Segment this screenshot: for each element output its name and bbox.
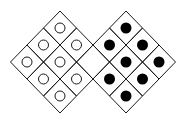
cell-outline bbox=[44, 79, 77, 113]
filled-dot-icon bbox=[121, 23, 132, 34]
grid-cell bbox=[110, 45, 143, 79]
diamond-grid-diagram bbox=[0, 0, 189, 124]
open-circle-icon bbox=[72, 74, 82, 84]
grid-cell bbox=[93, 62, 126, 96]
left-grid-open-circles bbox=[11, 11, 110, 113]
filled-dot-icon bbox=[154, 57, 165, 68]
grid-cell bbox=[11, 45, 44, 79]
cell-outline bbox=[44, 45, 77, 79]
cell-outline bbox=[27, 28, 60, 62]
grid-cell bbox=[93, 28, 126, 62]
right-grid-filled-dots bbox=[93, 11, 176, 113]
grid-cell bbox=[27, 28, 60, 62]
grid-cell bbox=[44, 45, 77, 79]
filled-dot-icon bbox=[137, 74, 148, 85]
open-circle-icon bbox=[39, 40, 49, 50]
grid-cell bbox=[27, 62, 60, 96]
grid-cell bbox=[60, 28, 93, 62]
open-circle-icon bbox=[55, 57, 65, 67]
grid-cell bbox=[143, 45, 176, 79]
cell-outline bbox=[77, 45, 110, 79]
filled-dot-icon bbox=[137, 40, 148, 51]
grid-cell bbox=[126, 28, 159, 62]
grid-cell bbox=[110, 79, 143, 113]
grid-cell bbox=[126, 62, 159, 96]
cell-outline bbox=[60, 28, 93, 62]
cell-outline bbox=[44, 11, 77, 45]
empty-cell bbox=[77, 45, 110, 79]
grid-cell bbox=[110, 11, 143, 45]
filled-dot-icon bbox=[104, 74, 115, 85]
grid-cell bbox=[44, 11, 77, 45]
open-circle-icon bbox=[72, 40, 82, 50]
diagram-canvas bbox=[0, 0, 189, 124]
open-circle-icon bbox=[22, 57, 32, 67]
filled-dot-icon bbox=[121, 57, 132, 68]
cell-outline bbox=[11, 45, 44, 79]
filled-dot-icon bbox=[104, 40, 115, 51]
cell-outline bbox=[27, 62, 60, 96]
grid-cell bbox=[60, 62, 93, 96]
open-circle-icon bbox=[55, 91, 65, 101]
grid-cell bbox=[44, 79, 77, 113]
open-circle-icon bbox=[39, 74, 49, 84]
cell-outline bbox=[60, 62, 93, 96]
open-circle-icon bbox=[55, 23, 65, 33]
filled-dot-icon bbox=[121, 91, 132, 102]
